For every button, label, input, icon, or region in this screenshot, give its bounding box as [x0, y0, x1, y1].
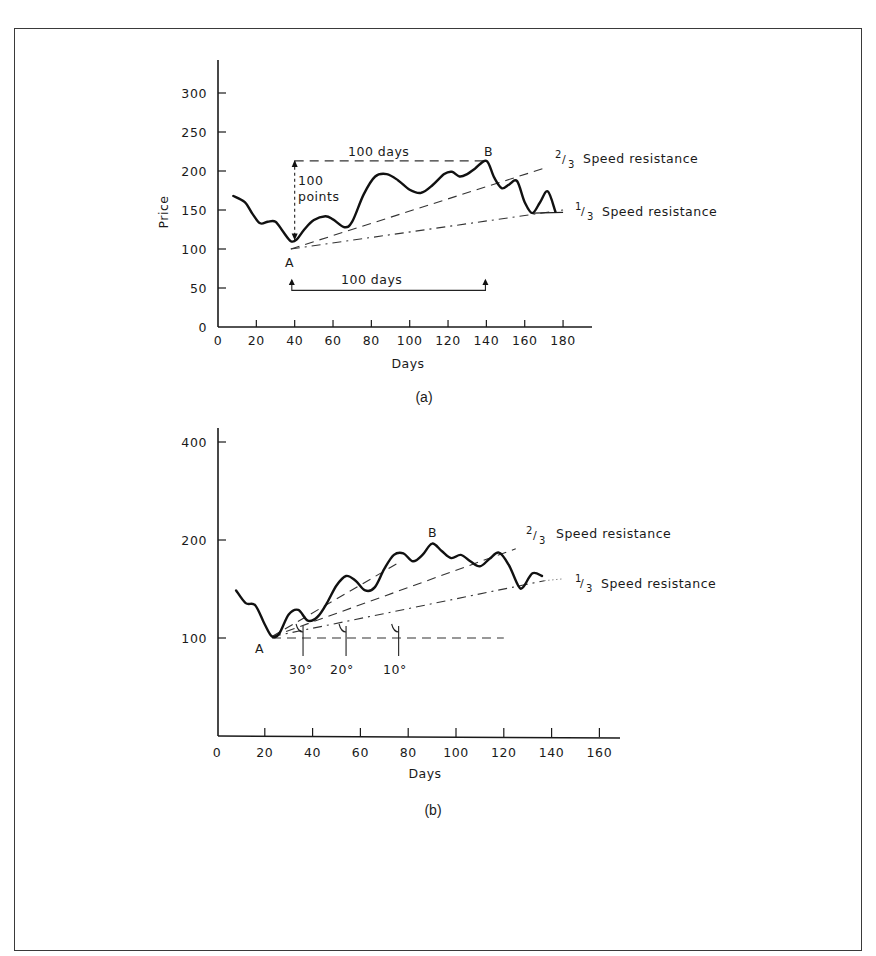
reference-line-b-1 [272, 581, 544, 637]
angle-30-label: 30° [289, 662, 313, 677]
chart-b-xlabel: Days [408, 766, 441, 781]
bottom-100-days-label: 100 days [341, 272, 402, 287]
chart-a-price-series [233, 161, 555, 242]
x-tick-label: 120 [435, 333, 461, 348]
chart-a: 0501001502002503000204060801001201401601… [156, 60, 717, 405]
chart-a-axes: 0501001502002503000204060801001201401601… [181, 60, 592, 348]
figure-canvas: 0501001502002503000204060801001201401601… [0, 0, 876, 956]
y-tick-label: 300 [181, 86, 207, 101]
chart-a-annotations: Price Days A B 100 days 100 points 100 d… [156, 144, 717, 405]
chart-b: 100200400020406080100120140160 Days A B … [181, 428, 716, 818]
price-line-b [236, 544, 542, 638]
x-tick-label: 0 [213, 745, 222, 760]
svg-text:Speed resistance: Speed resistance [601, 576, 716, 591]
angle-20-label: 20° [330, 662, 354, 677]
price-line-a [233, 161, 555, 242]
x-tick-label: 40 [286, 333, 303, 348]
point-b-label: B [484, 144, 493, 159]
x-tick-label: 160 [587, 745, 613, 760]
svg-text:Speed resistance: Speed resistance [556, 526, 671, 541]
svg-text:2: 2 [526, 525, 533, 536]
x-tick-label: 180 [550, 333, 576, 348]
svg-text:3: 3 [539, 535, 546, 546]
chart-b-annotations: Days A B 30° 20° 10° 2 / 3 Speed resista… [255, 525, 716, 818]
reference-line-b-0 [272, 549, 516, 637]
arrow-up-icon [482, 279, 488, 285]
x-tick-label: 60 [324, 333, 341, 348]
svg-text:/: / [533, 529, 537, 542]
svg-text:Speed resistance: Speed resistance [602, 204, 717, 219]
one-third-label-b: 1 / 3 Speed resistance [575, 573, 716, 594]
x-tick-label: 120 [491, 745, 517, 760]
x-tick-label: 160 [512, 333, 538, 348]
chart-a-reference-lines [289, 160, 563, 290]
top-100-days-label: 100 days [348, 144, 409, 159]
x-tick-label: 60 [352, 745, 369, 760]
x-tick-label: 140 [474, 333, 500, 348]
point-a-label: A [285, 255, 294, 270]
chart-a-ylabel: Price [156, 196, 171, 229]
y-tick-label: 100 [181, 242, 207, 257]
x-tick-label: 80 [400, 745, 417, 760]
reference-line-a-1 [291, 210, 563, 249]
chart-b-axes: 100200400020406080100120140160 [181, 428, 620, 760]
x-tick-label: 80 [363, 333, 380, 348]
chart-b-reference-lines [272, 549, 564, 656]
arrow-up-icon [289, 279, 295, 285]
svg-text:2: 2 [555, 149, 562, 160]
reference-line-a-0 [291, 167, 548, 249]
y-tick-label: 200 [181, 164, 207, 179]
two-thirds-label-a: 2 / 3 Speed resistance [555, 149, 698, 170]
y-tick-label: 250 [181, 125, 207, 140]
y-tick-label: 400 [181, 435, 207, 450]
chart-b-price-series [236, 544, 542, 638]
points-label-2: points [298, 189, 339, 204]
chart-a-xlabel: Days [391, 356, 424, 371]
chart-b-caption: (b) [424, 802, 441, 818]
point-a-label-b: A [255, 641, 264, 656]
x-tick-label: 20 [256, 745, 273, 760]
x-axis-b [218, 736, 620, 738]
x-tick-label: 100 [443, 745, 469, 760]
x-tick-label: 140 [539, 745, 565, 760]
x-tick-label: 20 [248, 333, 265, 348]
chart-a-caption: (a) [415, 389, 432, 405]
svg-text:/: / [580, 577, 584, 590]
x-tick-label: 0 [214, 333, 223, 348]
y-tick-label: 50 [190, 281, 207, 296]
y-tick-label: 100 [181, 631, 207, 646]
two-thirds-label-b: 2 / 3 Speed resistance [526, 525, 671, 546]
y-tick-label: 150 [181, 203, 207, 218]
svg-text:/: / [581, 205, 585, 218]
angle-10-label: 10° [383, 662, 407, 677]
svg-text:3: 3 [587, 211, 594, 222]
point-b-label-b: B [428, 525, 437, 540]
one-third-label-a: 1 / 3 Speed resistance [575, 201, 717, 222]
svg-text:3: 3 [586, 583, 593, 594]
points-label-1: 100 [298, 173, 323, 188]
y-tick-label: 200 [181, 533, 207, 548]
x-tick-label: 40 [304, 745, 321, 760]
x-tick-label: 100 [397, 333, 423, 348]
svg-text:Speed resistance: Speed resistance [583, 151, 698, 166]
y-tick-label: 0 [198, 320, 207, 335]
svg-text:/: / [562, 153, 566, 166]
svg-text:3: 3 [568, 159, 575, 170]
